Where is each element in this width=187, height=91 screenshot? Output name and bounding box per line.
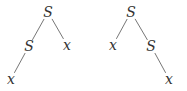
nonterminal-node: S [126, 4, 136, 20]
terminal-node: x [109, 37, 117, 53]
tree-edge [135, 19, 147, 40]
tree-edge [155, 53, 166, 73]
terminal-node: x [63, 37, 71, 53]
tree-edge [52, 19, 64, 39]
right-tree: SxSx [109, 4, 173, 87]
nonterminal-node: S [146, 38, 156, 54]
parse-tree-diagram: SSxxSxSx [0, 0, 187, 91]
nonterminal-node: S [24, 38, 34, 54]
nonterminal-node: S [43, 4, 53, 20]
tree-edge [14, 53, 25, 73]
left-tree: SSxx [7, 4, 71, 87]
terminal-node: x [165, 71, 173, 87]
tree-edge [116, 19, 127, 39]
tree-edge [32, 19, 44, 40]
terminal-node: x [7, 71, 15, 87]
